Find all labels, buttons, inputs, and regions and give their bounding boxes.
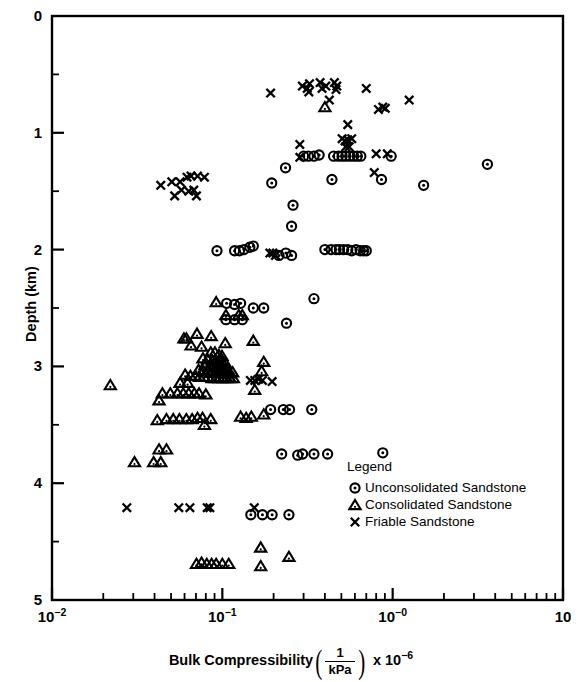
series-consolidated-sandstone — [105, 102, 331, 570]
fraction-numerator: 1 — [333, 646, 346, 661]
legend-entry: Consolidated Sandstone — [345, 496, 526, 513]
x-tick-label: 10 — [555, 609, 572, 624]
marker-triangle-center — [169, 394, 171, 396]
marker-triangle-center — [156, 421, 158, 423]
legend-symbol-triangle-icon — [345, 498, 365, 512]
marker-circle-center — [215, 249, 218, 252]
marker-circle-center — [271, 513, 274, 516]
legend-symbol-cross-icon — [345, 515, 365, 529]
fraction: 1kPa — [325, 646, 354, 677]
marker-triangle-center — [288, 558, 290, 560]
marker-circle-center — [381, 451, 384, 454]
marker-circle-center — [249, 513, 252, 516]
marker-triangle-center — [228, 565, 230, 567]
marker-triangle-center — [161, 394, 163, 396]
marker-triangle-center — [153, 463, 155, 465]
legend-label: Friable Sandstone — [365, 514, 475, 529]
marker-triangle-center — [185, 339, 187, 341]
marker-triangle-center — [210, 337, 212, 339]
marker-triangle-center — [203, 426, 205, 428]
marker-circle-center — [284, 166, 287, 169]
marker-circle-center — [252, 245, 255, 248]
marker-triangle-center — [133, 463, 135, 465]
x-axis-title-multiplier: x 10 — [373, 652, 401, 668]
left-paren: ( — [315, 649, 322, 674]
legend-entry: Unconsolidated Sandstone — [345, 479, 526, 496]
series-friable-sandstone — [123, 78, 414, 512]
y-tick-label: 1 — [34, 124, 42, 141]
marker-circle-center — [326, 453, 329, 456]
marker-triangle-center — [165, 450, 167, 452]
x-tick-label: 10−1 — [208, 609, 237, 624]
marker-triangle-center — [252, 341, 254, 343]
marker-triangle-center — [198, 394, 200, 396]
y-tick-label: 5 — [34, 591, 42, 608]
fraction-denominator: kPa — [325, 662, 354, 677]
legend-label: Consolidated Sandstone — [365, 497, 512, 512]
marker-circle-center — [285, 322, 288, 325]
marker-triangle-center — [160, 463, 162, 465]
marker-circle-center — [301, 453, 304, 456]
marker-triangle-center — [165, 420, 167, 422]
x-axis-title-fraction-group: (1kPa) — [313, 646, 367, 677]
marker-circle-center — [262, 307, 265, 310]
marker-circle-center — [354, 486, 357, 489]
y-axis-title: Depth (km) — [23, 244, 39, 364]
legend-symbol-circle-dot-icon — [345, 481, 365, 495]
marker-circle-center — [486, 163, 489, 166]
marker-triangle-center — [260, 548, 262, 550]
legend-title: Legend — [345, 459, 526, 474]
marker-circle-center — [318, 153, 321, 156]
marker-circle-center — [365, 249, 368, 252]
marker-circle-center — [380, 178, 383, 181]
y-tick-label: 4 — [34, 474, 43, 491]
marker-circle-center — [287, 513, 290, 516]
marker-triangle-center — [186, 383, 188, 385]
marker-triangle-center — [205, 395, 207, 397]
scatter-plot: 012345 — [0, 0, 582, 682]
x-axis-title-exponent: −6 — [401, 649, 413, 661]
marker-circle-center — [239, 302, 242, 305]
marker-circle-center — [252, 307, 255, 310]
marker-triangle-center — [250, 417, 252, 419]
marker-circle-center — [269, 408, 272, 411]
marker-triangle-center — [324, 108, 326, 110]
y-tick-label: 0 — [34, 7, 42, 24]
marker-circle-center — [270, 182, 273, 185]
marker-circle-center — [290, 225, 293, 228]
marker-triangle-center — [215, 303, 217, 305]
marker-circle-center — [422, 184, 425, 187]
right-paren: ) — [358, 649, 365, 674]
marker-triangle-center — [232, 379, 234, 381]
marker-triangle-center — [260, 567, 262, 569]
x-tick-label: 10−0 — [378, 609, 407, 624]
legend: Legend Unconsolidated SandstoneConsolida… — [345, 459, 526, 530]
marker-circle-center — [280, 453, 283, 456]
marker-triangle-center — [200, 347, 202, 349]
marker-circle-center — [225, 302, 228, 305]
marker-circle-center — [290, 254, 293, 257]
marker-triangle-center — [190, 346, 192, 348]
marker-triangle-center — [263, 362, 265, 364]
marker-triangle-center — [210, 420, 212, 422]
marker-triangle-center — [254, 391, 256, 393]
x-tick-label: 10−2 — [38, 609, 67, 624]
marker-triangle-center — [263, 415, 265, 417]
legend-entries: Unconsolidated SandstoneConsolidated San… — [345, 479, 526, 530]
marker-triangle-center — [241, 316, 243, 318]
marker-triangle-center — [109, 386, 111, 388]
marker-triangle-center — [354, 505, 356, 507]
marker-circle-center — [359, 155, 362, 158]
marker-triangle-center — [225, 316, 227, 318]
marker-triangle-center — [224, 344, 226, 346]
figure-container: 012345 10−210−110−010 Depth (km) Bulk Co… — [0, 0, 582, 682]
marker-circle-center — [312, 297, 315, 300]
x-axis-title: Bulk Compressibility(1kPa)x 10−6 — [0, 646, 582, 677]
legend-label: Unconsolidated Sandstone — [365, 480, 526, 495]
marker-circle-center — [330, 178, 333, 181]
marker-triangle-center — [260, 372, 262, 374]
x-axis-title-prefix: Bulk Compressibility — [169, 652, 313, 668]
marker-circle-center — [292, 204, 295, 207]
marker-triangle-center — [158, 450, 160, 452]
marker-triangle-center — [158, 401, 160, 403]
